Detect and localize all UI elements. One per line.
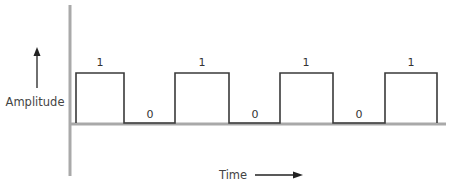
bit-label: 1 xyxy=(303,56,310,69)
y-axis-label: Amplitude xyxy=(6,95,65,109)
bit-label: 1 xyxy=(408,56,415,69)
amplitude-arrow-icon xyxy=(34,47,41,88)
x-axis-label: Time xyxy=(218,168,247,182)
bit-label: 0 xyxy=(147,108,154,121)
bit-label: 0 xyxy=(356,108,363,121)
square-wave-diagram: 1 0 1 0 1 0 1 Amplitude Time xyxy=(0,0,453,190)
time-arrow-icon xyxy=(255,172,303,179)
bit-label: 1 xyxy=(97,56,104,69)
bit-label: 1 xyxy=(199,56,206,69)
bit-label: 0 xyxy=(252,108,259,121)
